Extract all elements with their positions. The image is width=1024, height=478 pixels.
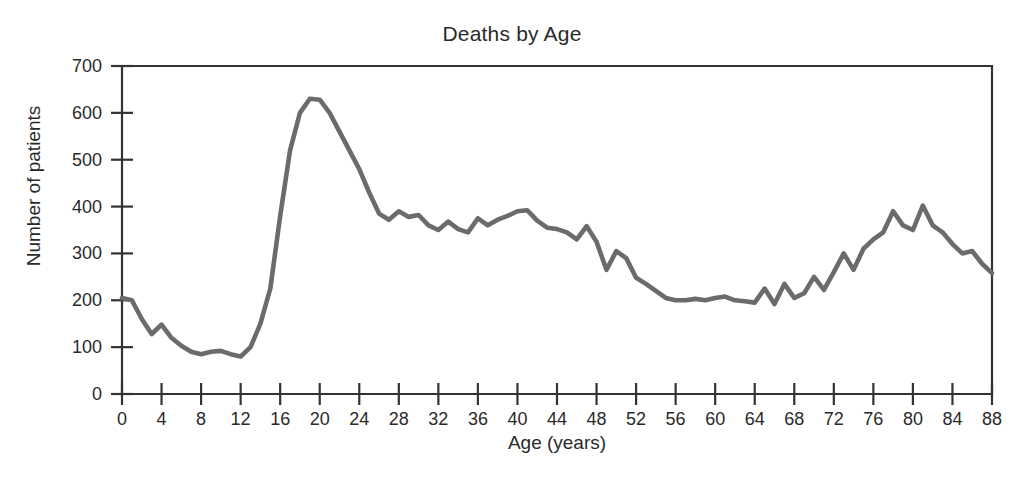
x-tick-label: 40 <box>507 409 527 429</box>
x-tick-label: 36 <box>468 409 488 429</box>
x-tick-label: 24 <box>349 409 369 429</box>
series-line-number-of-patients <box>122 99 992 357</box>
x-tick-label: 88 <box>982 409 1002 429</box>
x-tick-label: 12 <box>231 409 251 429</box>
x-tick-label: 56 <box>666 409 686 429</box>
y-tick-label: 400 <box>72 197 102 217</box>
x-tick-label: 4 <box>157 409 167 429</box>
line-chart-plot: 0100200300400500600700 04812162024283236… <box>0 0 1024 478</box>
x-tick-label: 72 <box>824 409 844 429</box>
x-tick-label: 48 <box>587 409 607 429</box>
x-tick-label: 20 <box>310 409 330 429</box>
y-tick-label: 700 <box>72 56 102 76</box>
y-tick-label: 200 <box>72 290 102 310</box>
x-tick-label: 28 <box>389 409 409 429</box>
x-tick-label: 44 <box>547 409 567 429</box>
x-tick-label: 68 <box>784 409 804 429</box>
x-axis-ticks: 0481216202428323640444852566064687276808… <box>117 383 1002 429</box>
x-tick-label: 76 <box>863 409 883 429</box>
data-series-line <box>122 99 992 357</box>
x-tick-label: 84 <box>942 409 962 429</box>
y-axis-ticks: 0100200300400500600700 <box>72 56 133 404</box>
x-tick-label: 52 <box>626 409 646 429</box>
x-tick-label: 64 <box>745 409 765 429</box>
x-tick-label: 80 <box>903 409 923 429</box>
x-tick-label: 32 <box>428 409 448 429</box>
y-tick-label: 0 <box>92 384 102 404</box>
y-tick-label: 300 <box>72 243 102 263</box>
y-tick-label: 500 <box>72 150 102 170</box>
chart-figure: Deaths by Age Number of patients Age (ye… <box>0 0 1024 478</box>
y-tick-label: 100 <box>72 337 102 357</box>
x-tick-label: 16 <box>270 409 290 429</box>
x-tick-label: 8 <box>196 409 206 429</box>
x-tick-label: 0 <box>117 409 127 429</box>
y-tick-label: 600 <box>72 103 102 123</box>
x-tick-label: 60 <box>705 409 725 429</box>
